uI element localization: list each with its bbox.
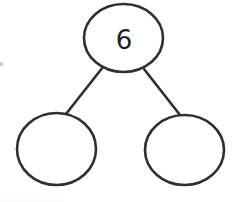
edge-whole-to-left-part [66,67,103,114]
edge-whole-to-right-part [144,69,180,115]
whole-node: 6 [84,4,163,72]
left-part-node-circle[interactable] [17,113,96,185]
whole-node-label: 6 [116,25,133,55]
number-bond-diagram: 6 [0,0,232,202]
right-part-node[interactable] [145,115,224,185]
right-part-node-circle[interactable] [145,115,224,185]
scan-smudge [0,62,3,67]
left-part-node[interactable] [17,113,96,185]
